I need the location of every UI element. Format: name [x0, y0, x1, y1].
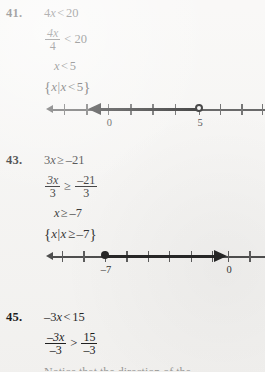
tick-mark	[83, 251, 84, 262]
step-fraction-1: 3x 3 ≥ –21 3	[44, 174, 259, 199]
fraction-denominator: –3	[81, 343, 97, 356]
relation: <	[61, 32, 74, 47]
coefficient: –3	[44, 310, 57, 324]
axis-label: 0	[226, 264, 231, 275]
problem-number: 45.	[6, 310, 22, 325]
step-inline-1: –3x<15	[44, 311, 259, 324]
step-set-notation: {x|x≥–7}	[44, 226, 259, 243]
relation: ≥	[56, 153, 66, 167]
tick-mark	[220, 104, 221, 115]
variable: x	[54, 206, 60, 220]
right-side: 20	[66, 6, 79, 20]
fraction-numerator: 3x	[45, 174, 60, 186]
tick-mark	[241, 104, 242, 115]
endpoint-open-circle	[195, 104, 203, 112]
right-side: 15	[72, 310, 85, 324]
cutoff-clip: Notice that the direction of the	[44, 366, 244, 371]
step-inline-1: 4x<20	[44, 7, 259, 20]
number-line-41: 0 5	[46, 100, 265, 128]
step-fraction-1: –3x –3 > 15 –3	[44, 331, 259, 356]
axis-arrow-left-icon	[46, 105, 53, 113]
problem-number: 43.	[6, 153, 22, 168]
fraction-left: –3x –3	[44, 331, 67, 356]
problem-number: 41.	[6, 6, 22, 21]
fraction-numerator: –3x	[45, 331, 66, 343]
fraction-right: 15 –3	[80, 331, 98, 356]
solution-ray	[106, 255, 216, 258]
relation: <	[60, 59, 70, 73]
axis-arrow-left-icon	[46, 252, 53, 260]
step-inline-2: x≥–7	[54, 207, 259, 220]
fraction-denominator: –3	[45, 343, 66, 356]
solution-ray-arrow-icon	[214, 250, 227, 262]
step-inline-2: x<5	[54, 60, 259, 73]
tick-mark	[62, 251, 63, 262]
tick-mark	[262, 104, 263, 115]
fraction-numerator: 15	[81, 331, 97, 343]
step-fraction-1: 4x 4 < 20	[44, 27, 259, 52]
variable: x	[54, 59, 60, 73]
cutoff-text: Notice that the direction of the	[44, 366, 244, 371]
axis-label: 5	[198, 117, 203, 128]
relation: <	[62, 310, 72, 324]
cutoff-text-row: Notice that the direction of the	[44, 366, 244, 371]
solution-ray	[101, 108, 202, 111]
fraction-denominator: 3	[45, 186, 60, 199]
problem-body: –3x<15 –3x –3 > 15 –3	[44, 310, 259, 356]
problem-body: 3x≥–21 3x 3 ≥ –21 3 x≥–7 {x|x≥–7}	[44, 153, 259, 275]
fraction-numerator: –21	[75, 174, 97, 186]
close-brace: }	[83, 79, 90, 95]
solution-ray-arrow-icon	[88, 103, 101, 115]
fraction-denominator: 4	[45, 39, 60, 52]
step-set-notation: {x|x<5}	[44, 79, 259, 96]
fraction: 4x 4	[44, 27, 61, 52]
close-brace: }	[90, 226, 97, 242]
fraction-numerator: 4x	[45, 27, 60, 39]
relation: <	[56, 6, 66, 20]
right-side: –7	[69, 206, 82, 220]
tick-mark	[228, 251, 229, 262]
step-inline-1: 3x≥–21	[44, 154, 259, 167]
fraction-right: –21 3	[74, 174, 98, 199]
variable: x	[50, 153, 56, 167]
right-side: 5	[70, 59, 76, 73]
relation: ≥	[60, 206, 70, 220]
fraction-denominator: 3	[75, 186, 97, 199]
tick-mark	[64, 104, 65, 115]
endpoint-closed-dot	[101, 251, 109, 259]
problem-body: 4x<20 4x 4 < 20 x<5 {x|x<5}	[44, 6, 259, 128]
condition-value: –7	[77, 226, 90, 241]
relation: <	[66, 79, 76, 94]
right-side: 20	[74, 32, 87, 47]
tick-mark	[86, 104, 87, 115]
fraction-left: 3x 3	[44, 174, 61, 199]
relation: ≥	[61, 179, 74, 194]
number-line-43: –7 0	[46, 247, 265, 275]
variable: x	[50, 6, 56, 20]
right-side: –21	[66, 153, 85, 167]
axis-label: 0	[107, 117, 112, 128]
axis-label: –7	[101, 264, 112, 275]
relation: ≥	[66, 226, 76, 241]
relation: >	[67, 336, 80, 351]
tick-mark	[249, 251, 250, 262]
